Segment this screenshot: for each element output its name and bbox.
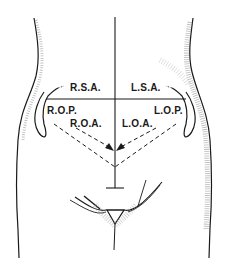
label-lsa: L.S.A. <box>131 83 161 93</box>
diagram-canvas: R.S.A. L.S.A. R.O.P. L.O.P. R.O.A. L.O.A… <box>0 0 228 260</box>
label-rop: R.O.P. <box>47 106 77 116</box>
roa-arrowhead-icon <box>105 143 114 151</box>
loa-dashed-arrow <box>119 128 156 148</box>
torso-right-outline <box>160 18 212 258</box>
label-rsa: R.S.A. <box>70 83 101 93</box>
label-roa: R.O.A. <box>70 119 102 129</box>
loa-arrowhead-icon <box>116 143 125 151</box>
groin-region <box>70 180 162 250</box>
rop-dashed-line <box>54 124 115 167</box>
abdomen-illustration <box>0 0 228 260</box>
roa-dashed-arrow <box>76 128 111 148</box>
label-lop: L.O.P. <box>154 106 183 116</box>
label-loa: L.O.A. <box>122 119 153 129</box>
torso-left-outline <box>17 18 43 258</box>
